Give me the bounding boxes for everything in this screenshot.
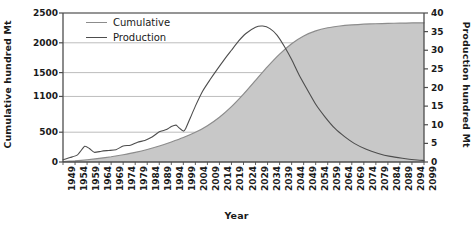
x-axis-tick-label: 1949 — [67, 166, 77, 191]
chart-legend: CumulativeProduction — [86, 16, 170, 44]
legend-swatch-cumulative — [86, 22, 107, 23]
y-axis-right-tick-label: 5 — [431, 138, 455, 148]
x-axis-tick-label: 2069 — [356, 166, 366, 191]
x-axis-tick-label: 1954 — [79, 166, 89, 191]
x-axis-tick-label: 2099 — [428, 166, 438, 191]
y-axis-right-tick-label: 10 — [431, 120, 455, 130]
legend-item[interactable]: Cumulative — [86, 16, 170, 29]
y-axis-left-title-text: Cumulative hundred Mt — [2, 20, 13, 148]
legend-label: Cumulative — [113, 16, 170, 29]
y-axis-left-tick-label: 2500 — [18, 8, 58, 18]
x-axis-tick-label: 2054 — [320, 166, 330, 191]
x-axis-tick-label: 1964 — [103, 166, 113, 191]
y-axis-right-tick-label: 30 — [431, 45, 455, 55]
chart-container: Cumulative hundred Mt Production hundred… — [0, 0, 473, 230]
x-axis-title-text: Year — [225, 210, 249, 221]
plot-area — [0, 0, 473, 230]
x-axis-tick-label: 2014 — [223, 166, 233, 191]
x-axis-tick-label: 2009 — [211, 166, 221, 191]
x-axis-tick-label: 2084 — [392, 166, 402, 191]
y-axis-right-tick-label: 15 — [431, 101, 455, 111]
y-axis-right-tick-label: 35 — [431, 27, 455, 37]
y-axis-left-tick-label: 1100 — [18, 91, 58, 101]
x-axis-tick-label: 1959 — [91, 166, 101, 191]
y-axis-right-tick-label: 20 — [431, 83, 455, 93]
x-axis-tick-label: 2049 — [308, 166, 318, 191]
y-axis-left-title: Cumulative hundred Mt — [0, 0, 14, 168]
legend-label: Production — [113, 31, 166, 44]
y-axis-left-tick-label: 1500 — [18, 68, 58, 78]
y-axis-right-title-text: Production hundred Mt — [461, 21, 472, 147]
x-axis-tick-label: 2034 — [272, 166, 282, 191]
x-axis-tick-label: 2079 — [380, 166, 390, 191]
x-axis-tick-label: 1994 — [175, 166, 185, 191]
x-axis-tick-label: 1989 — [163, 166, 173, 191]
x-axis-tick-label: 2044 — [296, 166, 306, 191]
x-axis-tick-label: 2004 — [199, 166, 209, 191]
x-axis-title: Year — [0, 210, 473, 221]
y-axis-right-tick-label: 40 — [431, 8, 455, 18]
x-axis-tick-label: 1969 — [115, 166, 125, 191]
x-axis-tick-label: 2029 — [260, 166, 270, 191]
x-axis-tick-label: 2059 — [332, 166, 342, 191]
y-axis-left-tick-label: 2000 — [18, 38, 58, 48]
legend-swatch-production — [86, 37, 107, 38]
x-axis-tick-label: 2089 — [404, 166, 414, 191]
y-axis-right-tick-label: 25 — [431, 64, 455, 74]
x-axis-tick-label: 2024 — [248, 166, 258, 191]
x-axis-tick-label: 1979 — [139, 166, 149, 191]
x-axis-tick-label: 2074 — [368, 166, 378, 191]
legend-item[interactable]: Production — [86, 31, 170, 44]
x-axis-tick-label: 2019 — [235, 166, 245, 191]
x-axis-tick-label: 2039 — [284, 166, 294, 191]
x-axis-tick-label: 1974 — [127, 166, 137, 191]
y-axis-right-title: Production hundred Mt — [459, 0, 473, 168]
x-axis-tick-label: 2094 — [416, 166, 426, 191]
x-axis-tick-label: 1999 — [187, 166, 197, 191]
x-axis-tick-label: 2064 — [344, 166, 354, 191]
x-axis-tick-label: 1984 — [151, 166, 161, 191]
y-axis-left-tick-label: 0 — [18, 157, 58, 167]
y-axis-left-tick-label: 500 — [18, 127, 58, 137]
